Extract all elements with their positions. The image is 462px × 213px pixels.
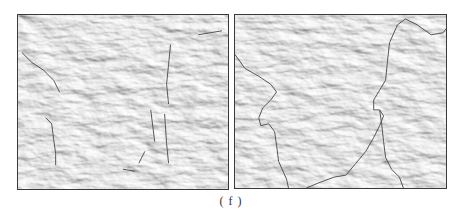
terrain-relief-left — [18, 15, 228, 189]
terrain-map-right-panel — [234, 14, 447, 189]
terrain-relief-right — [235, 15, 446, 188]
figure-caption: ( f ) — [0, 194, 462, 209]
terrain-map-left-panel — [17, 14, 229, 190]
